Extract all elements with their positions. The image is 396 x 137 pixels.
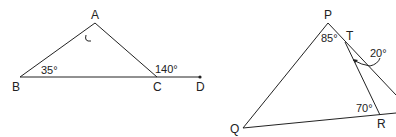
label-q: Q <box>230 122 239 136</box>
figure-triangle-abc: A B C D 35° 140° <box>12 8 205 94</box>
label-a: A <box>91 8 99 22</box>
point-d-dot <box>198 75 201 78</box>
figure-triangle-pqr: P Q R T 85° 70° 20° <box>230 8 396 136</box>
label-p: P <box>324 8 332 22</box>
geometry-diagram: A B C D 35° 140° P Q R T 85° 70° 20° <box>0 0 396 137</box>
side-qr-extended <box>243 113 396 128</box>
label-r: R <box>377 117 386 131</box>
angle-exterior-c-label: 140° <box>155 63 178 75</box>
line-pt-extended <box>328 23 396 95</box>
label-t: T <box>346 29 354 43</box>
label-c: C <box>153 80 162 94</box>
angle-a-arc <box>86 35 91 41</box>
label-b: B <box>12 80 20 94</box>
side-ac <box>95 23 157 77</box>
side-pq <box>243 23 328 128</box>
angle-t-pointer <box>370 58 380 66</box>
label-d: D <box>196 80 205 94</box>
angle-b-label: 35° <box>41 64 58 76</box>
angle-t-label: 20° <box>370 47 387 59</box>
angle-r-label: 70° <box>356 102 373 114</box>
angle-p-label: 85° <box>321 32 338 44</box>
